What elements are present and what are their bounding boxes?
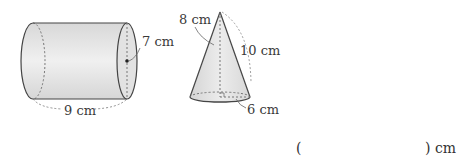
answer-unit: ) cm [425, 140, 456, 156]
cylinder [21, 23, 140, 109]
cylinder-diameter-label: 7 cm [142, 34, 174, 49]
cone-slant-label: 10 cm [240, 43, 280, 58]
cone-height-label: 8 cm [179, 12, 211, 27]
cylinder-height-label: 9 cm [64, 103, 96, 118]
cone-radius-label: 6 cm [247, 102, 279, 117]
answer-open-paren: ( [296, 140, 301, 156]
answer-blank[interactable] [306, 140, 421, 158]
